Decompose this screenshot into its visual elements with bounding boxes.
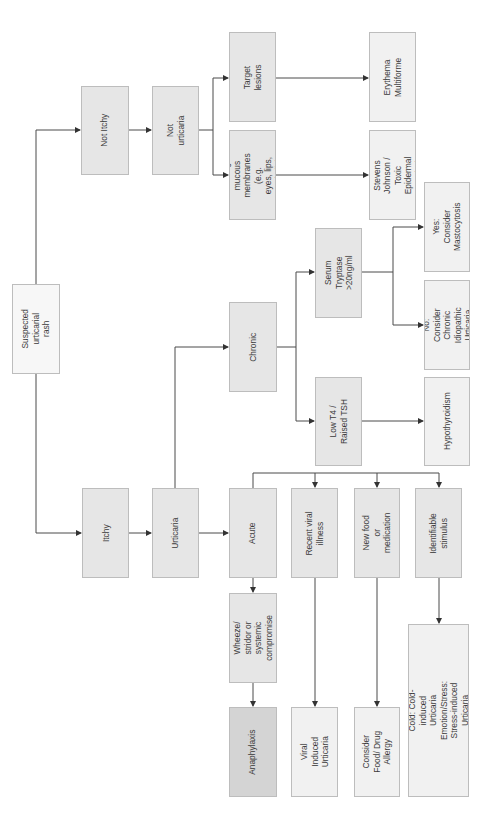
node-label: Urticaria bbox=[170, 517, 181, 548]
node-label: Chronic bbox=[248, 333, 259, 362]
node-mastocytosis: Yes: Consider Mastocytosis bbox=[424, 182, 470, 272]
node-label: Erythema Multiforme bbox=[382, 55, 403, 100]
urticaria-flowchart: Suspected urticarial rash Not Itchy Itch… bbox=[0, 0, 486, 819]
node-chronic-idiopathic: No: Consider Chronic Idiopathic Urticari… bbox=[424, 280, 470, 370]
node-wheeze-stridor: Wheeze/ stridor or systemic compromise bbox=[229, 593, 277, 683]
node-suspected-urticarial-rash: Suspected urticarial rash bbox=[12, 284, 60, 374]
edge-suspected-not-itchy bbox=[36, 130, 80, 284]
node-label: Not Itchy bbox=[100, 114, 111, 147]
node-low-t4: Low T4 / Raised TSH bbox=[315, 377, 362, 466]
edge-not-urticaria-target bbox=[213, 78, 228, 130]
node-chronic: Chronic bbox=[229, 302, 277, 392]
node-not-urticaria: Not urticaria bbox=[152, 86, 199, 175]
node-label: Suspected urticarial rash bbox=[20, 306, 52, 352]
edge-not-urticaria-blistering bbox=[213, 130, 228, 175]
node-label: Anaphylaxis bbox=[248, 729, 259, 774]
edge-tryptase-no bbox=[393, 272, 423, 325]
node-hypothyroidism: Hypothyroidism bbox=[424, 377, 470, 466]
node-stimulus-types: Touch: Contact Urticaria Cold: Cold-indu… bbox=[408, 624, 469, 797]
node-label: Touch: Contact Urticaria Cold: Cold-indu… bbox=[408, 681, 469, 740]
node-label: Consider Stevens Johnson / Toxic Epiderm… bbox=[369, 153, 416, 198]
node-urticaria: Urticaria bbox=[152, 488, 199, 578]
node-target-lesions: Target lesions bbox=[229, 32, 276, 122]
node-acute: Acute bbox=[229, 488, 277, 578]
node-label: New food or medication bbox=[361, 511, 393, 555]
node-label: Blistering of mucous membranes (e.g. eye… bbox=[229, 153, 276, 198]
node-label: Itchy bbox=[100, 524, 111, 542]
edge-chronic-lowt4 bbox=[296, 347, 314, 421]
node-itchy: Itchy bbox=[82, 488, 129, 578]
node-label: Target lesions bbox=[242, 55, 263, 100]
node-label: Not urticaria bbox=[165, 108, 186, 153]
node-label: Acute bbox=[248, 522, 259, 543]
node-label: Low T4 / Raised TSH bbox=[328, 399, 349, 444]
node-label: Consider Food/ Drug Allergy bbox=[361, 730, 393, 774]
node-label: Yes: Consider Mastocytosis bbox=[431, 203, 463, 251]
edge-chronic-tryptase bbox=[296, 272, 314, 347]
node-label: Serum Tryptase >20ng/ml bbox=[323, 251, 355, 296]
node-stevens-johnson: Consider Stevens Johnson / Toxic Epiderm… bbox=[369, 130, 416, 220]
node-blistering: Blistering of mucous membranes (e.g. eye… bbox=[229, 130, 276, 220]
edge-urticaria-chronic bbox=[175, 347, 228, 488]
node-not-itchy: Not Itchy bbox=[81, 86, 129, 175]
node-viral-induced-urticaria: Viral Induced Urticaria bbox=[291, 707, 338, 797]
node-label: Identifiable stimulus bbox=[428, 511, 449, 556]
node-new-food-medication: New food or medication bbox=[354, 488, 400, 578]
node-anaphylaxis: Anaphylaxis bbox=[229, 707, 277, 797]
node-serum-tryptase: Serum Tryptase >20ng/ml bbox=[315, 228, 362, 318]
edge-tryptase-yes bbox=[393, 227, 423, 272]
node-label: Wheeze/ stridor or systemic compromise bbox=[232, 615, 274, 661]
node-recent-viral-illness: Recent viral illness bbox=[291, 488, 338, 578]
node-identifiable-stimulus: Identifiable stimulus bbox=[415, 488, 462, 578]
edge-suspected-itchy bbox=[36, 374, 81, 533]
node-label: Hypothyroidism bbox=[442, 393, 453, 451]
node-food-drug-allergy: Consider Food/ Drug Allergy bbox=[354, 707, 400, 797]
node-label: Viral Induced Urticaria bbox=[299, 730, 331, 775]
node-label: No: Consider Chronic Idiopathic Urticari… bbox=[424, 303, 470, 347]
node-erythema-multiforme: Erythema Multiforme bbox=[369, 32, 416, 122]
node-label: Recent viral illness bbox=[304, 511, 325, 556]
